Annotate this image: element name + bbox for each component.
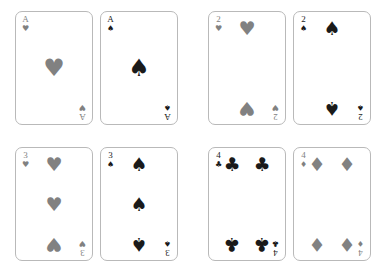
card-pip-spades-1: ♠ <box>323 98 340 117</box>
card-pip-field: ♠♠ <box>307 17 357 119</box>
hearts-icon: ♥ <box>79 103 86 112</box>
card-4-diamonds[interactable]: 4♦4♦♦♦♦♦ <box>293 147 371 261</box>
hearts-icon: ♥ <box>22 160 29 169</box>
card-A-spades[interactable]: A♠A♠♠ <box>100 11 178 125</box>
hearts-icon: ♥ <box>79 239 86 248</box>
card-group-threes: 3♥3♥♥♥♥3♠3♠♠♠♠ <box>0 136 193 272</box>
card-rank-label: 4 <box>216 151 221 160</box>
card-pip-field: ♠♠♠ <box>114 153 164 255</box>
card-rank-label: A <box>107 15 114 24</box>
card-4-clubs[interactable]: 4♣4♣♣♣♣♣ <box>208 147 286 261</box>
card-rank-label: 3 <box>80 248 85 257</box>
card-group-aces: A♥A♥♥A♠A♠♠ <box>0 0 193 136</box>
card-pip-hearts-1: ♥ <box>45 195 62 214</box>
card-pip-diamonds-3: ♦ <box>338 234 355 253</box>
card-pip-hearts-0: ♥ <box>45 155 62 174</box>
card-pip-diamonds-1: ♦ <box>338 155 355 174</box>
card-2-hearts[interactable]: 2♥2♥♥♥ <box>208 11 286 125</box>
card-group-fours: 4♣4♣♣♣♣♣4♦4♦♦♦♦♦ <box>193 136 386 272</box>
card-rank-label: 2 <box>273 112 278 121</box>
card-pip-hearts-0: ♥ <box>43 56 65 80</box>
card-pip-clubs-3: ♣ <box>253 234 270 253</box>
card-2-spades[interactable]: 2♠2♠♠♠ <box>293 11 371 125</box>
card-A-hearts[interactable]: A♥A♥♥ <box>15 11 93 125</box>
card-pip-clubs-1: ♣ <box>253 155 270 174</box>
card-pip-clubs-0: ♣ <box>223 155 240 174</box>
card-pip-hearts-2: ♥ <box>45 234 62 253</box>
spades-icon: ♠ <box>164 239 171 248</box>
diamonds-icon: ♦ <box>300 160 307 169</box>
card-pip-field: ♠ <box>114 17 164 119</box>
card-rank-label: 4 <box>358 248 363 257</box>
clubs-icon: ♣ <box>272 239 279 248</box>
card-pip-spades-0: ♠ <box>323 19 340 38</box>
spades-icon: ♠ <box>107 160 114 169</box>
card-pip-field: ♥♥ <box>222 17 272 119</box>
card-pip-field: ♦♦♦♦ <box>307 153 357 255</box>
clubs-icon: ♣ <box>215 160 222 169</box>
diamonds-icon: ♦ <box>357 239 364 248</box>
card-pip-field: ♥♥♥ <box>29 153 79 255</box>
spades-icon: ♠ <box>357 103 364 112</box>
card-rank-label: 3 <box>108 151 113 160</box>
card-pip-spades-1: ♠ <box>130 195 147 214</box>
card-pip-field: ♣♣♣♣ <box>222 153 272 255</box>
card-pip-hearts-0: ♥ <box>238 19 255 38</box>
card-rank-label: A <box>22 15 29 24</box>
card-pip-clubs-2: ♣ <box>223 234 240 253</box>
card-pip-spades-0: ♠ <box>128 56 150 80</box>
card-pip-spades-0: ♠ <box>130 155 147 174</box>
card-pip-diamonds-2: ♦ <box>308 234 325 253</box>
card-group-twos: 2♥2♥♥♥2♠2♠♠♠ <box>193 0 386 136</box>
card-rank-label: 2 <box>301 15 306 24</box>
card-rank-label: 2 <box>358 112 363 121</box>
card-rank-label: 4 <box>273 248 278 257</box>
hearts-icon: ♥ <box>22 24 29 33</box>
spades-icon: ♠ <box>164 103 171 112</box>
card-rank-label: 2 <box>216 15 221 24</box>
card-pip-field: ♥ <box>29 17 79 119</box>
spades-icon: ♠ <box>300 24 307 33</box>
card-3-spades[interactable]: 3♠3♠♠♠♠ <box>100 147 178 261</box>
card-rank-label: 4 <box>301 151 306 160</box>
spades-icon: ♠ <box>107 24 114 33</box>
card-pip-hearts-1: ♥ <box>238 98 255 117</box>
card-3-hearts[interactable]: 3♥3♥♥♥♥ <box>15 147 93 261</box>
hearts-icon: ♥ <box>215 24 222 33</box>
card-pip-diamonds-0: ♦ <box>308 155 325 174</box>
card-rank-label: 3 <box>165 248 170 257</box>
card-rank-label: A <box>164 112 171 121</box>
card-pip-spades-2: ♠ <box>130 234 147 253</box>
playing-card-board: A♥A♥♥A♠A♠♠2♥2♥♥♥2♠2♠♠♠3♥3♥♥♥♥3♠3♠♠♠♠4♣4♣… <box>0 0 386 272</box>
hearts-icon: ♥ <box>272 103 279 112</box>
card-rank-label: 3 <box>23 151 28 160</box>
card-rank-label: A <box>79 112 86 121</box>
